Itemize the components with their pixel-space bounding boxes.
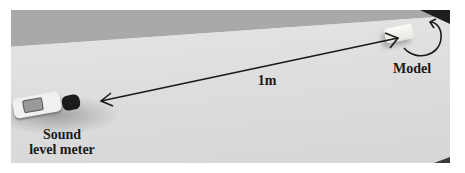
rotation-arrow — [404, 22, 441, 56]
sound-level-meter-label: Sound level meter — [22, 127, 102, 157]
label-line-2: level meter — [22, 142, 102, 157]
distance-label: 1m — [252, 73, 282, 88]
model-label: Model — [387, 61, 437, 76]
label-line-1: Sound — [22, 127, 102, 142]
distance-arrow — [101, 38, 398, 101]
